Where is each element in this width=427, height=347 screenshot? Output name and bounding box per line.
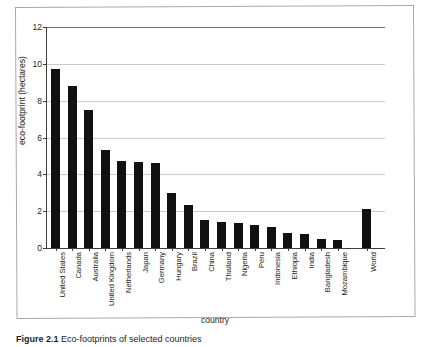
y-axis-tick-label: 8	[20, 97, 42, 106]
y-axis-tick-mark	[43, 101, 46, 102]
x-axis-tick-mark	[155, 248, 156, 251]
x-axis-tick-label: Peru	[258, 252, 266, 268]
bar	[134, 162, 143, 248]
x-axis-tick-label: Australia	[92, 252, 100, 282]
bar	[51, 69, 60, 248]
y-axis-tick-label: 6	[20, 134, 42, 143]
x-axis-tick-mark	[205, 248, 206, 251]
x-axis-tick-label: India	[308, 252, 316, 268]
x-axis-tick-label: Indonesia	[274, 252, 282, 285]
x-axis-tick-mark	[222, 248, 223, 251]
bar	[200, 220, 209, 248]
x-axis-tick-label: Ethiopia	[291, 252, 299, 279]
x-axis-tick-labels: United StatesCanadaAustraliaUnited Kingd…	[46, 252, 384, 314]
bar	[283, 233, 292, 248]
x-axis-tick-mark	[271, 248, 272, 251]
y-axis-tick-mark	[43, 211, 46, 212]
x-axis-tick-label: United Kingdom	[108, 252, 116, 306]
x-axis-tick-label: Hungary	[175, 252, 183, 281]
x-axis-tick-mark	[321, 248, 322, 251]
x-axis-tick-label: Nigeria	[241, 252, 249, 276]
bar	[151, 163, 160, 248]
bar	[167, 193, 176, 248]
bar	[300, 234, 309, 248]
bar	[184, 205, 193, 248]
bar	[333, 240, 342, 248]
x-axis-tick-label: Thailand	[225, 252, 233, 281]
x-axis-tick-label: China	[208, 252, 216, 272]
y-axis-tick-mark	[43, 174, 46, 175]
x-axis-tick-label: Netherlands	[125, 252, 133, 293]
x-axis-title: country	[46, 316, 384, 325]
y-axis-tick-mark	[43, 248, 46, 249]
figure-page: eco-footprint (hectares) 024681012 Unite…	[0, 0, 427, 347]
x-axis-tick-label: Canada	[75, 252, 83, 279]
x-axis-tick-label: World	[370, 252, 378, 272]
bar	[101, 150, 110, 248]
bar	[117, 161, 126, 248]
x-axis-tick-label: Brazil	[191, 252, 199, 271]
bar	[68, 86, 77, 248]
figure-caption: Figure 2.1 Eco-footprints of selected co…	[16, 334, 416, 345]
x-axis-tick-mark	[105, 248, 106, 251]
x-axis-tick-mark	[338, 248, 339, 251]
y-axis-tick-label: 2	[20, 207, 42, 216]
bar	[234, 223, 243, 248]
x-axis-tick-mark	[238, 248, 239, 251]
bar	[84, 110, 93, 248]
x-axis-tick-mark	[305, 248, 306, 251]
x-axis-tick-mark	[139, 248, 140, 251]
x-axis-tick-mark	[188, 248, 189, 251]
bar	[267, 227, 276, 248]
bar	[217, 222, 226, 248]
x-axis-tick-label: Mozambique	[341, 252, 349, 295]
bar	[362, 209, 371, 248]
x-axis-tick-label: United States	[59, 252, 67, 298]
x-axis-tick-mark	[72, 248, 73, 251]
y-axis-tick-mark	[43, 27, 46, 28]
x-axis-tick-label: Germany	[158, 252, 166, 283]
x-axis-tick-mark	[172, 248, 173, 251]
x-axis-tick-mark	[89, 248, 90, 251]
bar-chart: eco-footprint (hectares) 024681012 Unite…	[0, 0, 427, 347]
x-axis-tick-mark	[56, 248, 57, 251]
x-axis-tick-marks	[46, 248, 384, 251]
x-axis-tick-mark	[367, 248, 368, 251]
y-axis-tick-labels: 024681012	[18, 27, 42, 248]
y-axis-tick-label: 0	[20, 244, 42, 253]
figure-caption-label: Figure 2.1	[16, 334, 59, 344]
figure-caption-text: Eco-footprints of selected countries	[61, 334, 202, 344]
x-axis-tick-label: Japan	[142, 252, 150, 273]
y-axis-tick-label: 12	[20, 23, 42, 32]
x-axis-tick-label: Bangladesh	[324, 252, 332, 292]
bar	[250, 225, 259, 248]
y-axis-tick-mark	[43, 138, 46, 139]
bar-series	[46, 27, 384, 248]
x-axis-tick-mark	[288, 248, 289, 251]
x-axis-tick-mark	[255, 248, 256, 251]
y-axis-tick-label: 10	[20, 60, 42, 69]
bar	[317, 239, 326, 248]
y-axis-tick-mark	[43, 64, 46, 65]
y-axis-tick-label: 4	[20, 170, 42, 179]
x-axis-tick-mark	[122, 248, 123, 251]
